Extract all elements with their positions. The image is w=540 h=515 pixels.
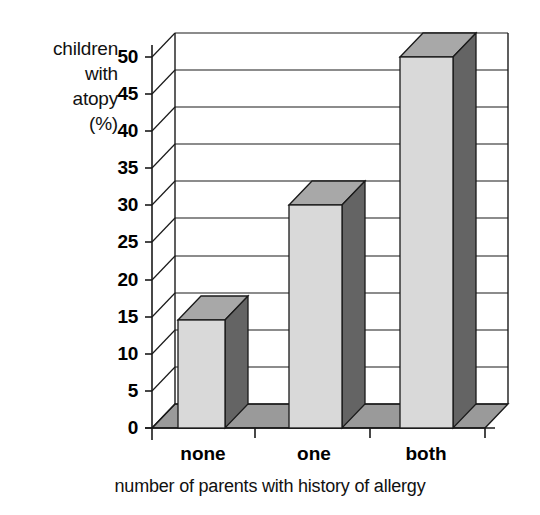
y-tick-label-0: 0 (96, 417, 138, 439)
y-tick-label-30: 30 (96, 194, 138, 216)
x-axis-ticks (255, 428, 485, 438)
y-tick-label-5: 5 (96, 380, 138, 402)
bar-one-side (342, 181, 365, 428)
bar-both-side (453, 33, 476, 428)
y-tick-label-45: 45 (96, 83, 138, 105)
depth-connector-lines (152, 33, 175, 428)
bar-chart: children with atopy (%) 50 45 40 35 30 2… (0, 0, 540, 515)
y-tick-label-40: 40 (96, 120, 138, 142)
y-tick-label-35: 35 (96, 157, 138, 179)
x-axis-title: number of parents with history of allerg… (0, 476, 540, 497)
x-category-label-one: one (259, 443, 369, 465)
y-axis-ticks (145, 57, 152, 428)
bar-both[interactable] (400, 33, 476, 428)
y-tick-label-20: 20 (96, 269, 138, 291)
y-tick-label-15: 15 (96, 306, 138, 328)
bar-none[interactable] (178, 296, 248, 428)
bar-one-front (289, 205, 342, 428)
bar-both-front (400, 57, 453, 428)
x-category-label-both: both (371, 443, 481, 465)
x-category-label-none: none (148, 443, 258, 465)
y-tick-label-25: 25 (96, 231, 138, 253)
bar-one[interactable] (289, 181, 365, 428)
y-tick-label-50: 50 (96, 46, 138, 68)
bar-none-front (178, 320, 225, 428)
y-tick-label-10: 10 (96, 343, 138, 365)
bar-none-side (225, 296, 248, 428)
